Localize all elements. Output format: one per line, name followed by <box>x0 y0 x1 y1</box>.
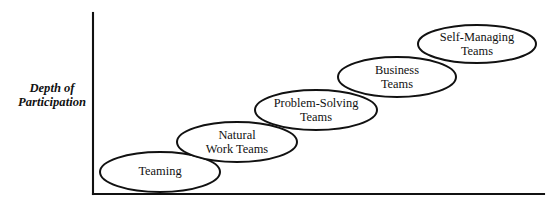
stage-label-teaming-line1: Teaming <box>138 164 181 178</box>
stage-label-business-teams-line2: Teams <box>381 77 413 91</box>
stage-natural-work-teams[interactable]: Natural Work Teams <box>177 122 297 162</box>
stage-label-natural-work-teams-line1: Natural <box>218 128 256 142</box>
diagram-canvas: Depth of Participation Teaming Natural W… <box>0 0 547 211</box>
stage-label-self-managing-teams-line1: Self-Managing <box>440 30 514 44</box>
stage-label-self-managing-teams-line2: Teams <box>461 44 493 58</box>
stage-label-problem-solving-teams-line2: Teams <box>300 110 332 124</box>
y-axis-label-line2: Participation <box>18 95 86 109</box>
y-axis-label-line1: Depth of <box>28 81 76 95</box>
stage-label-business-teams-line1: Business <box>375 63 419 77</box>
stage-self-managing-teams[interactable]: Self-Managing Teams <box>418 25 536 63</box>
staircase-diagram: Depth of Participation Teaming Natural W… <box>0 0 547 211</box>
stage-label-problem-solving-teams-line1: Problem-Solving <box>274 96 359 110</box>
stage-label-natural-work-teams-line2: Work Teams <box>206 142 268 156</box>
stage-business-teams[interactable]: Business Teams <box>338 57 456 97</box>
stage-problem-solving-teams[interactable]: Problem-Solving Teams <box>255 90 377 130</box>
